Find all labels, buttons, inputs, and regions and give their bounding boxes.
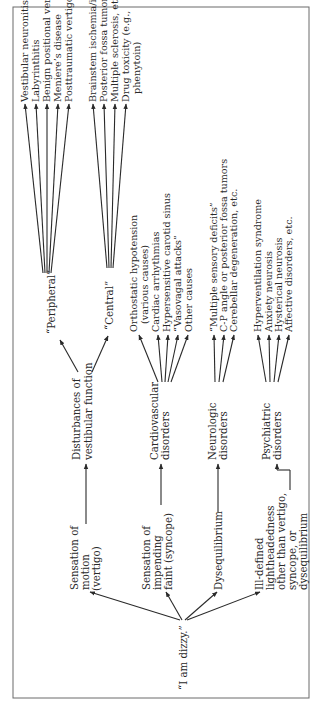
cardiovascular-arrows — [139, 335, 188, 382]
complaint-line: dysequilibrium — [298, 512, 309, 590]
complaint-motion: Sensation of motion (vertigo) — [69, 525, 102, 591]
cause-item: Hyperventilation syndrome — [252, 199, 263, 332]
complaint-line: syncope, or — [287, 530, 298, 590]
category-psychiatric: Psychiatric disorders — [261, 403, 283, 460]
cause-item: Affective disorders, etc. — [283, 216, 294, 333]
cause-item: Cerebellar degeneration, etc. — [228, 189, 239, 332]
cause-item: Labyrinthitis — [30, 39, 41, 102]
complaint-line: Sensation of — [69, 525, 80, 590]
category-cardiovascular: Cardiovascular disorders — [149, 382, 171, 460]
complaint-arrows — [86, 464, 290, 524]
complaint-line: impending — [152, 535, 163, 590]
cardiovascular-causes: Orthostatic hypotension (various causes)… — [128, 193, 194, 332]
subtype-central: “Central” — [104, 281, 115, 330]
cause-item: “Vasovagal attacks” — [172, 235, 183, 332]
category-line: vestibular function — [83, 362, 94, 461]
complaint-line: faint (syncope) — [163, 513, 174, 590]
root-arrows — [90, 592, 260, 620]
category-line: Disturbances of — [71, 377, 82, 460]
complaint-line: Sensation of — [141, 525, 152, 590]
dizziness-flowchart: “I am dizzy.” Sensation of motion (verti… — [0, 0, 313, 707]
complaint-line: Dysequilibrium — [213, 511, 224, 590]
cause-item: Benign positional vertigo — [41, 0, 52, 102]
cause-item: Vestibular neuronitis — [19, 0, 30, 103]
cause-item: Multiple sclerosis, etc. — [109, 0, 120, 102]
category-neurologic: Neurologic disorders — [207, 402, 229, 460]
central-causes: Brainstem ischemia/infarct Posterior fos… — [87, 0, 142, 102]
psychiatric-arrows — [258, 335, 289, 382]
central-arrows — [93, 104, 126, 268]
complaint-lightheadedness: Ill-defined lightheadedness other than v… — [254, 493, 309, 590]
neurologic-arrows — [214, 335, 234, 382]
cause-item: phenytoin) — [131, 42, 142, 94]
subtype-peripheral: “Peripheral” — [46, 270, 57, 334]
cause-item: Brainstem ischemia/infarct — [87, 0, 98, 102]
cause-item: Meniere’s disease — [52, 14, 63, 102]
complaint-line: (vertigo) — [91, 546, 102, 591]
category-line: Cardiovascular — [149, 382, 160, 460]
peripheral-arrows — [25, 104, 69, 273]
neurologic-causes: “Multiple sensory deficits” C-P angle or… — [208, 159, 239, 332]
peripheral-causes: Vestibular neuronitis Labyrinthitis Beni… — [19, 0, 74, 103]
category-line: Psychiatric — [261, 403, 272, 460]
complaint-line: lightheadedness — [265, 506, 276, 590]
category-line: disorders — [272, 411, 283, 460]
cause-item: Other causes — [183, 268, 194, 332]
cause-item: Drug toxicity (e.g., — [120, 11, 131, 102]
cause-item: Orthostatic hypotension — [128, 215, 139, 332]
complaint-line: Ill-defined — [254, 537, 265, 590]
category-line: disorders — [218, 411, 229, 460]
cause-item: Posttraumatic vertigo, etc. — [63, 0, 74, 102]
root-node: “I am dizzy.” — [178, 625, 189, 690]
complaint-syncope: Sensation of impending faint (syncope) — [141, 513, 174, 590]
complaint-line: other than vertigo, — [276, 493, 287, 590]
cause-item: (various causes) — [139, 245, 150, 324]
cause-item: Cardiac arrhythmias — [150, 232, 161, 332]
complaint-line: motion — [80, 554, 91, 590]
complaint-dysequilibrium: Dysequilibrium — [213, 511, 224, 590]
cause-item: Posterior fossa tumors — [98, 0, 109, 102]
psychiatric-causes: Hyperventilation syndrome Anxiety neuros… — [252, 199, 294, 333]
category-line: Neurologic — [207, 402, 218, 460]
cause-item: Hypersensitive carotid sinus — [161, 193, 172, 332]
category-vestibular: Disturbances of vestibular function — [71, 362, 94, 461]
category-line: disorders — [160, 411, 171, 460]
